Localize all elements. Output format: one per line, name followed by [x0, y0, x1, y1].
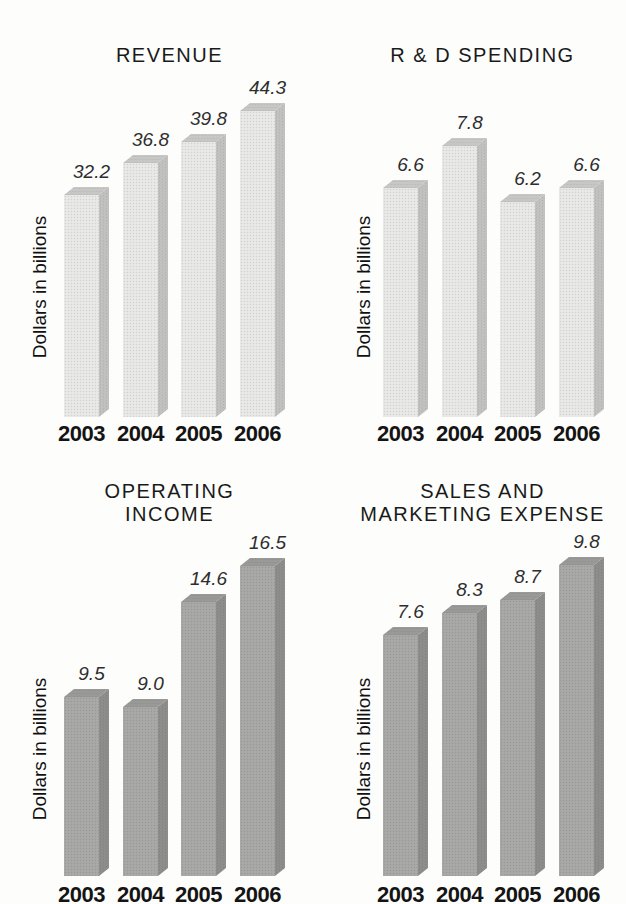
x-tick-label: 2003	[58, 882, 105, 904]
value-label: 9.5	[78, 663, 104, 685]
x-tick-label: 2004	[117, 421, 164, 447]
value-label: 16.5	[249, 532, 286, 554]
x-tick-label: 2005	[494, 421, 541, 447]
bar-2003	[383, 627, 428, 876]
bar-2004	[442, 605, 487, 876]
value-label: 9.0	[137, 673, 163, 695]
x-tick-label: 2003	[377, 421, 424, 447]
bar-side-face	[275, 103, 285, 417]
value-label: 7.6	[397, 601, 423, 623]
bar-2006	[240, 103, 285, 417]
chart-panel-revenue: REVENUE Dollars in billions 32.2200336.8…	[0, 0, 313, 452]
financial-bar-charts-figure: REVENUE Dollars in billions 32.2200336.8…	[0, 0, 626, 904]
bar-side-face	[216, 134, 226, 417]
plot-area-revenue: 32.2200336.8200439.8200544.32006	[0, 0, 313, 452]
x-tick-label: 2006	[553, 421, 600, 447]
bar-side-face	[418, 627, 428, 876]
bar-front-face	[123, 163, 158, 417]
bar-front-face	[240, 111, 275, 417]
bar-2005	[181, 594, 226, 876]
bar-side-face	[158, 699, 168, 876]
bar-2004	[123, 699, 168, 876]
bar-side-face	[99, 187, 109, 417]
value-label: 7.8	[456, 112, 482, 134]
bar-front-face	[500, 600, 535, 876]
value-label: 8.3	[456, 579, 482, 601]
bar-2004	[442, 138, 487, 417]
bar-2003	[64, 187, 109, 417]
bar-front-face	[383, 188, 418, 417]
bar-front-face	[442, 146, 477, 417]
x-tick-label: 2006	[234, 882, 281, 904]
bar-2005	[500, 592, 545, 876]
bar-front-face	[64, 195, 99, 417]
x-tick-label: 2004	[436, 421, 483, 447]
plot-area-sales-marketing-expense: 7.620038.320048.720059.82006	[313, 452, 626, 904]
value-label: 39.8	[190, 108, 227, 130]
bar-front-face	[559, 565, 594, 876]
bar-side-face	[535, 592, 545, 876]
value-label: 14.6	[190, 568, 227, 590]
x-tick-label: 2003	[58, 421, 105, 447]
x-tick-label: 2006	[234, 421, 281, 447]
x-tick-label: 2004	[436, 882, 483, 904]
chart-panel-operating-income: OPERATINGINCOME Dollars in billions 9.52…	[0, 452, 313, 904]
bar-side-face	[216, 594, 226, 876]
value-label: 9.8	[573, 531, 599, 553]
bar-side-face	[477, 605, 487, 876]
value-label: 8.7	[514, 566, 540, 588]
x-tick-label: 2005	[175, 882, 222, 904]
bar-front-face	[500, 202, 535, 417]
bar-front-face	[123, 707, 158, 876]
plot-area-rd-spending: 6.620037.820046.220056.62006	[313, 0, 626, 452]
x-tick-label: 2005	[175, 421, 222, 447]
bar-front-face	[559, 188, 594, 417]
bar-side-face	[535, 194, 545, 417]
bar-side-face	[418, 180, 428, 417]
bar-2004	[123, 155, 168, 417]
bar-2003	[64, 689, 109, 876]
x-tick-label: 2003	[377, 882, 424, 904]
value-label: 6.6	[397, 154, 423, 176]
bar-2003	[383, 180, 428, 417]
value-label: 32.2	[73, 161, 110, 183]
value-label: 36.8	[132, 129, 169, 151]
x-tick-label: 2005	[494, 882, 541, 904]
x-tick-label: 2006	[553, 882, 600, 904]
bar-side-face	[594, 180, 604, 417]
bar-front-face	[383, 635, 418, 876]
bar-side-face	[158, 155, 168, 417]
bar-side-face	[477, 138, 487, 417]
bar-side-face	[275, 558, 285, 876]
x-tick-label: 2004	[117, 882, 164, 904]
bar-2005	[500, 194, 545, 417]
bar-side-face	[594, 557, 604, 876]
chart-panel-rd-spending: R & D SPENDING Dollars in billions 6.620…	[313, 0, 626, 452]
value-label: 6.6	[573, 154, 599, 176]
bar-2006	[559, 180, 604, 417]
bar-front-face	[240, 566, 275, 876]
bar-front-face	[442, 613, 477, 876]
bar-front-face	[64, 697, 99, 876]
bar-front-face	[181, 142, 216, 417]
bar-2006	[559, 557, 604, 876]
plot-area-operating-income: 9.520039.0200414.6200516.52006	[0, 452, 313, 904]
bar-2006	[240, 558, 285, 876]
value-label: 6.2	[514, 168, 540, 190]
value-label: 44.3	[249, 77, 286, 99]
bar-2005	[181, 134, 226, 417]
bar-side-face	[99, 689, 109, 876]
bar-front-face	[181, 602, 216, 876]
chart-panel-sales-marketing-expense: SALES ANDMARKETING EXPENSE Dollars in bi…	[313, 452, 626, 904]
